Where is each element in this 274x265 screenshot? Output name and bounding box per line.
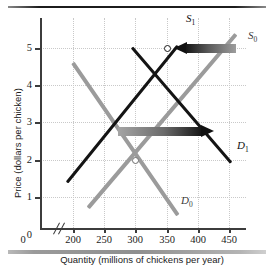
x-axis-break-mark (54, 222, 68, 234)
supply-shift-arrow-left (174, 43, 236, 54)
equilibrium-dot-new[interactable] (164, 45, 171, 52)
arrow-head-right-icon (201, 125, 214, 137)
x-tick-label-300: 300 (118, 234, 152, 245)
plot-area: 5 4 3 2 1 0 0 200 250 300 350 400 450 Pr… (40, 18, 240, 228)
y-tick-label-5: 5 (16, 42, 32, 53)
x-tick-label-200: 200 (56, 234, 90, 245)
curve-label-d1-text: D (237, 139, 245, 151)
curve-label-d1: D1 (237, 139, 249, 154)
y-tick-2 (35, 160, 40, 162)
x-tick-label-450: 450 (212, 234, 246, 245)
gridline-h-3 (40, 122, 246, 123)
gridline-v-250 (104, 18, 105, 228)
top-rule (8, 6, 266, 8)
y-tick-5 (35, 48, 40, 50)
y-tick-1 (35, 197, 40, 199)
x-tick-200 (73, 228, 75, 233)
gridline-h-1 (40, 197, 246, 198)
equilibrium-dot-original[interactable] (132, 157, 139, 164)
arrow-shaft (118, 127, 202, 136)
arrow-shaft (186, 44, 236, 53)
curve-label-d0-sub: 0 (189, 200, 193, 209)
curve-label-d0: D0 (181, 194, 193, 209)
y-axis (40, 18, 42, 228)
curve-label-d0-text: D (181, 194, 189, 206)
x-tick-350 (167, 228, 169, 233)
y-tick-3 (35, 122, 40, 124)
x-tick-label-0: 0 (6, 234, 40, 245)
y-axis-title: Price (dollars per chicken) (12, 88, 23, 198)
x-tick-400 (198, 228, 200, 233)
x-tick-label-350: 350 (150, 234, 184, 245)
curve-label-s1-sub: 1 (192, 18, 196, 27)
x-tick-250 (104, 228, 106, 233)
x-tick-300 (135, 228, 137, 233)
curve-supply-original (87, 33, 238, 209)
x-tick-450 (229, 228, 231, 233)
x-tick-label-400: 400 (181, 234, 215, 245)
demand-shift-arrow-right (118, 126, 214, 137)
curve-label-d1-sub: 1 (245, 145, 249, 154)
x-axis (40, 228, 246, 230)
x-tick-label-250: 250 (87, 234, 121, 245)
y-tick-4 (35, 85, 40, 87)
curve-label-s0-sub: 0 (254, 35, 258, 44)
x-axis-title: Quantity (millions of chickens per year) (12, 254, 272, 265)
gridline-v-200 (73, 18, 74, 228)
curve-demand-new (131, 47, 232, 164)
curve-label-s0: S0 (248, 29, 257, 44)
curve-label-s1: S1 (186, 12, 195, 27)
